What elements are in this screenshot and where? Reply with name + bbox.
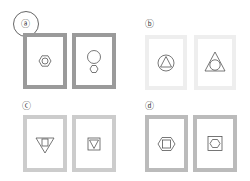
option-c-panel-2[interactable] bbox=[72, 115, 116, 172]
option-a-label[interactable]: ⓐ bbox=[21, 19, 30, 29]
hexagon-in-square-figure bbox=[197, 119, 233, 168]
option-a-panel-1[interactable] bbox=[23, 33, 67, 89]
inverted-triangle-in-square-figure bbox=[76, 119, 112, 168]
circle-in-triangle-figure bbox=[198, 39, 232, 86]
option-d-panel-2[interactable] bbox=[193, 115, 237, 172]
option-c-label[interactable]: ⓒ bbox=[22, 101, 31, 111]
option-c-panel-1[interactable] bbox=[23, 115, 67, 172]
option-b-panel-2[interactable] bbox=[194, 35, 236, 90]
option-d-panel-1[interactable] bbox=[145, 115, 188, 172]
circle-above-hexagon-figure bbox=[76, 37, 112, 85]
square-in-hexagon-figure bbox=[149, 119, 184, 168]
triangle-in-circle-figure bbox=[149, 39, 183, 86]
option-d-label[interactable]: ⓓ bbox=[145, 101, 154, 111]
square-in-inverted-triangle-figure bbox=[27, 119, 63, 168]
option-a-panel-2[interactable] bbox=[72, 33, 116, 89]
hexagon-with-circle-figure bbox=[27, 37, 63, 85]
option-b-panel-1[interactable] bbox=[145, 35, 187, 90]
option-b-label[interactable]: ⓑ bbox=[145, 19, 154, 29]
